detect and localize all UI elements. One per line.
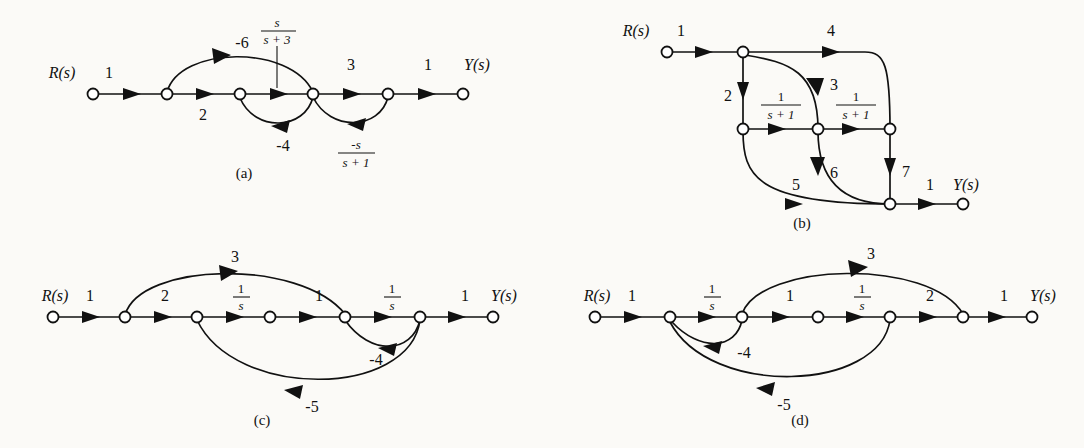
graph-c-fraction-1-over-s-first: 1 s — [233, 281, 250, 313]
graph-c-edge-3 — [125, 274, 345, 315]
graph-d-gain-out: 1 — [1000, 287, 1008, 304]
graph-b-arrow-4 — [822, 46, 840, 58]
graph-d-fraction-1-over-s-first: 1 s — [704, 281, 721, 313]
graph-b-frac1-numerator: 1 — [778, 89, 785, 104]
graph-d-arrow-1 — [624, 311, 642, 323]
graph-c-frac1-denominator: s — [238, 298, 243, 313]
graph-a-input-label: R(s) — [48, 64, 76, 82]
graph-d-frac1-denominator: s — [709, 298, 714, 313]
graph-b-input-label: R(s) — [622, 22, 650, 40]
graph-b-gain-out: 1 — [926, 176, 934, 193]
graph-a-arrow-neg4 — [271, 120, 290, 133]
graph-c-node-n6[interactable] — [415, 312, 426, 323]
graph-a-arrow-negs — [347, 118, 366, 131]
graph-b-gain-6: 6 — [830, 164, 838, 181]
graph-d-gain-3: 3 — [867, 245, 875, 262]
graph-a-fraction-negs-over-s1: -s s + 1 — [338, 137, 375, 170]
graph-b-gain-4: 4 — [827, 22, 835, 39]
graph-b-fraction-1-over-s1-left: 1 s + 1 — [761, 89, 801, 122]
graph-b-node-n1[interactable] — [662, 47, 673, 58]
graph-b-output-label: Y(s) — [953, 176, 979, 194]
graph-c-frac2-denominator: s — [389, 298, 394, 313]
graph-b-gain-3: 3 — [830, 76, 838, 93]
graph-d-node-n2[interactable] — [665, 312, 676, 323]
graph-c-arrow-2 — [154, 311, 172, 323]
graph-d-frac2-denominator: s — [859, 298, 864, 313]
graph-c-frac2-numerator: 1 — [389, 281, 396, 296]
graph-a-gain-3: 3 — [347, 56, 355, 73]
graph-d-output-label: Y(s) — [1030, 287, 1056, 305]
graph-b-arrow-7 — [884, 158, 896, 176]
graph-d-input-label: R(s) — [583, 287, 611, 305]
graph-b-arrow-mid2 — [842, 123, 860, 135]
graph-d-node-n4[interactable] — [813, 312, 824, 323]
graph-a-edge-negs — [313, 97, 388, 123]
graph-d-node-n1[interactable] — [590, 312, 601, 323]
graph-a-arrow-4 — [343, 88, 361, 100]
graph-a: R(s) 1 2 -6 3 1 Y(s) -4 s s + 3 -s s + 1… — [48, 15, 490, 182]
graph-d-node-n6[interactable] — [958, 312, 969, 323]
graph-d-node-n7[interactable] — [1027, 312, 1038, 323]
figure-sheet: R(s) 1 2 -6 3 1 Y(s) -4 s s + 3 -s s + 1… — [0, 0, 1084, 448]
graph-d-node-n5[interactable] — [885, 312, 896, 323]
graph-c-node-n7[interactable] — [488, 312, 499, 323]
graph-b-node-n7[interactable] — [958, 199, 969, 210]
graph-b-arrow-2 — [737, 82, 749, 100]
graph-a-output-label: Y(s) — [464, 56, 490, 74]
graph-b-node-n2[interactable] — [738, 47, 749, 58]
graph-b-gain-7: 7 — [902, 163, 910, 180]
graph-d-gain-neg4: -4 — [737, 344, 750, 361]
graph-a-node-n4[interactable] — [308, 89, 319, 100]
graph-c-arrow-6 — [448, 311, 466, 323]
graph-d-frac2-numerator: 1 — [859, 281, 866, 296]
graph-a-gain-neg4: -4 — [276, 137, 289, 154]
graph-b-node-n5[interactable] — [885, 124, 896, 135]
graph-b-caption: (b) — [793, 215, 811, 232]
graph-d-arrow-neg5 — [756, 382, 775, 396]
graph-a-node-n6[interactable] — [458, 89, 469, 100]
graph-b-arrow-5 — [785, 198, 803, 210]
graph-c-gain-1mid: 1 — [315, 287, 323, 304]
graph-c-node-n5[interactable] — [340, 312, 351, 323]
graph-a-frac2-denominator: s + 1 — [343, 155, 370, 170]
graph-a-gain-neg6: -6 — [235, 34, 248, 51]
graph-d-node-n3[interactable] — [737, 312, 748, 323]
graph-a-fraction-s-over-s3: s s + 3 — [261, 15, 296, 47]
graph-c-edge-neg4 — [345, 320, 420, 346]
graph-b-node-n6[interactable] — [885, 199, 896, 210]
graph-c-node-n4[interactable] — [265, 312, 276, 323]
graph-a-node-n2[interactable] — [162, 89, 173, 100]
graph-b-arrow-mid1 — [768, 123, 786, 135]
graph-b-gain-2: 2 — [724, 87, 732, 104]
graph-b-edge-6 — [818, 131, 890, 204]
graph-a-gain-2: 2 — [199, 106, 207, 123]
graph-c-gain-neg5: -5 — [305, 398, 318, 415]
graph-c-arrow-4 — [299, 311, 317, 323]
graph-a-node-n5[interactable] — [383, 89, 394, 100]
graph-d-frac1-numerator: 1 — [709, 281, 716, 296]
graph-b-frac2-denominator: s + 1 — [843, 107, 870, 122]
graph-c-node-n3[interactable] — [192, 312, 203, 323]
graph-b-node-n4[interactable] — [813, 124, 824, 135]
graph-d-edge-neg5 — [670, 320, 890, 377]
graph-d-gain-neg5: -5 — [777, 396, 790, 413]
graph-a-node-n3[interactable] — [235, 89, 246, 100]
graph-a-edge-neg4 — [240, 97, 313, 123]
graph-a-caption: (a) — [236, 165, 253, 182]
graph-d-gain-in: 1 — [628, 287, 636, 304]
graph-d: R(s) 1 1 3 2 1 Y(s) -4 -5 1 s 1 s (d) — [583, 245, 1056, 429]
graph-b-arrow-in — [695, 46, 713, 58]
graph-c-output-label: Y(s) — [491, 287, 517, 305]
signal-flow-graphs-svg: R(s) 1 2 -6 3 1 Y(s) -4 s s + 3 -s s + 1… — [0, 0, 1084, 448]
graph-a-frac1-numerator: s — [274, 15, 279, 30]
graph-b-arrow-out — [918, 198, 936, 210]
graph-b-node-n3[interactable] — [738, 124, 749, 135]
graph-a-edge-neg6 — [167, 57, 313, 92]
graph-c-node-n2[interactable] — [120, 312, 131, 323]
graph-a-node-n1[interactable] — [88, 89, 99, 100]
graph-c-caption: (c) — [254, 412, 271, 429]
graph-c-fraction-1-over-s-second: 1 s — [384, 281, 401, 313]
graph-d-gain-2: 2 — [926, 287, 934, 304]
graph-c-gain-2: 2 — [161, 287, 169, 304]
graph-c-node-n1[interactable] — [48, 312, 59, 323]
